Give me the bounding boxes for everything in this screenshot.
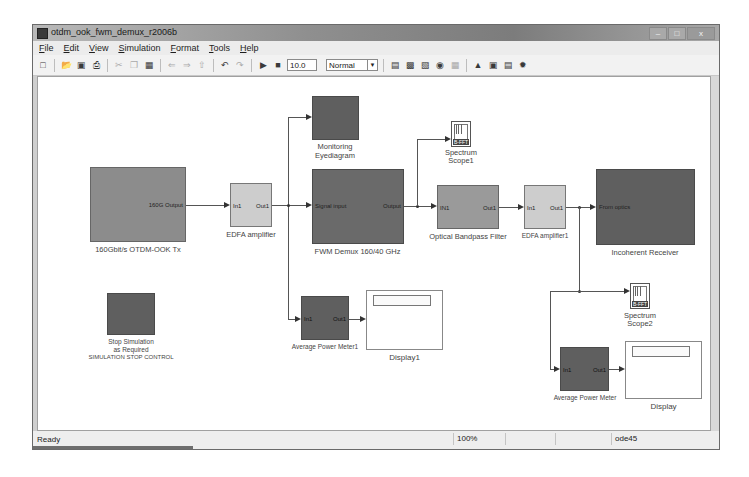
library-icon[interactable]: ▩	[404, 59, 416, 71]
apm-out-port: Out1	[593, 367, 606, 373]
title-bar[interactable]: otdm_ook_fwm_demux_r2006b – □ x	[33, 25, 719, 41]
back-icon[interactable]: ⇐	[166, 59, 178, 71]
obpf-out-port: Out1	[483, 205, 496, 211]
vertical-scrollbar[interactable]	[711, 76, 719, 431]
paste-icon[interactable]: ▦	[143, 59, 155, 71]
arrow-icon	[431, 203, 437, 209]
signal-line[interactable]	[186, 205, 224, 206]
model-explorer-icon[interactable]: ▧	[419, 59, 431, 71]
status-cell-2	[505, 433, 554, 445]
start-icon[interactable]: ▶	[257, 59, 269, 71]
maximize-button[interactable]: □	[668, 27, 686, 40]
toolbar-separator	[466, 59, 467, 72]
properties-icon[interactable]: ▤	[502, 59, 514, 71]
arrow-icon	[554, 366, 560, 372]
redo-icon[interactable]: ↷	[234, 59, 246, 71]
status-bar: Ready 100% ode45	[33, 431, 719, 449]
stop-simulation-block[interactable]	[107, 293, 155, 335]
display-block[interactable]	[625, 341, 702, 399]
menu-format[interactable]: Format	[170, 43, 199, 53]
average-power-meter-1-label: Average Power Meter1	[282, 343, 368, 350]
minimize-button[interactable]: –	[649, 27, 667, 40]
save-icon[interactable]: ▣	[75, 59, 87, 71]
average-power-meter-block[interactable]: In1 Out1	[560, 347, 609, 391]
status-cell-3	[555, 433, 609, 445]
optical-bandpass-filter-block[interactable]: IN1 Out1	[437, 185, 499, 229]
print-icon[interactable]: ⎙	[90, 59, 102, 71]
menu-bar: File Edit View Simulation Format Tools H…	[33, 41, 719, 55]
edfa1-out-port: Out1	[550, 205, 563, 211]
signal-branch-line[interactable]	[550, 291, 551, 369]
copy-icon[interactable]: ❐	[128, 59, 140, 71]
menu-tools[interactable]: Tools	[209, 43, 230, 53]
stop-simulation-label-1: Stop Simulation	[86, 338, 176, 345]
signal-branch-line[interactable]	[579, 207, 580, 292]
stop-simulation-label-2: as Required	[86, 346, 176, 353]
menu-simulation[interactable]: Simulation	[118, 43, 160, 53]
arrow-icon	[360, 316, 366, 322]
display-1-label: Display1	[366, 353, 443, 362]
incoherent-receiver-block[interactable]: From optics	[596, 169, 695, 245]
signal-line[interactable]	[349, 319, 360, 320]
simulation-mode-value: Normal	[329, 61, 355, 70]
signal-line[interactable]	[550, 291, 624, 292]
build-icon[interactable]: ▤	[389, 59, 401, 71]
menu-file[interactable]: File	[39, 43, 54, 53]
incoherent-receiver-label: Incoherent Receiver	[590, 248, 700, 257]
signal-line[interactable]	[288, 319, 295, 320]
apm1-in-port: In1	[304, 316, 312, 322]
menu-edit[interactable]: Edit	[64, 43, 80, 53]
open-icon[interactable]: 📂	[60, 59, 72, 71]
arrow-icon	[295, 316, 301, 322]
scope-tag: B-FFT	[453, 139, 469, 145]
edfa1-in-port: In1	[527, 205, 535, 211]
spectrum-scope-1-block[interactable]: B-FFT	[451, 121, 471, 147]
toolbar: □ 📂 ▣ ⎙ ✂ ❐ ▦ ⇐ ⇒ ⇧ ↶ ↷ ▶ ■ 10.0 Normal …	[33, 55, 719, 76]
spectrum-scope-2-block[interactable]: B-FFT	[630, 283, 650, 309]
undo-icon[interactable]: ↶	[219, 59, 231, 71]
stop-time-input[interactable]: 10.0	[287, 59, 317, 71]
signal-line[interactable]	[417, 139, 445, 140]
signal-line[interactable]	[609, 369, 619, 370]
cut-icon[interactable]: ✂	[113, 59, 125, 71]
arrow-icon	[619, 366, 625, 372]
edfa-amplifier-block[interactable]: In1 Out1	[230, 183, 272, 227]
edfa-amplifier-1-block[interactable]: In1 Out1	[524, 185, 566, 229]
menu-help[interactable]: Help	[240, 43, 259, 53]
solver-name: ode45	[611, 433, 705, 445]
arrow-icon	[224, 202, 230, 208]
arrow-icon	[518, 204, 524, 210]
otdm-tx-block[interactable]: 160G Output	[90, 167, 186, 242]
new-icon[interactable]: □	[37, 59, 49, 71]
signal-branch-line[interactable]	[288, 117, 289, 320]
debug-icon[interactable]: ◉	[434, 59, 446, 71]
menu-view[interactable]: View	[89, 43, 108, 53]
settings-icon[interactable]: ✹	[517, 59, 529, 71]
toolbar-separator	[160, 59, 161, 72]
close-button[interactable]: x	[687, 27, 715, 40]
simulation-mode-select[interactable]: Normal ▼	[326, 59, 378, 71]
window-controls: – □ x	[649, 27, 715, 40]
obpf-in-port: IN1	[440, 205, 449, 211]
edfa-amplifier-label: EDFA amplifier	[215, 230, 287, 239]
arrow-icon	[306, 114, 312, 120]
spectrum-plot-icon	[454, 124, 466, 134]
toolbar-separator	[251, 59, 252, 72]
progress-bar	[33, 446, 193, 449]
signal-branch-line[interactable]	[417, 139, 418, 206]
stop-icon[interactable]: ■	[272, 59, 284, 71]
signal-line[interactable]	[499, 207, 518, 208]
up-icon[interactable]: ⇧	[196, 59, 208, 71]
toolbar-separator	[107, 59, 108, 72]
average-power-meter-1-block[interactable]: In1 Out1	[301, 296, 349, 340]
signal-line[interactable]	[288, 117, 306, 118]
display-1-block[interactable]	[366, 290, 443, 350]
fit-icon[interactable]: ▣	[487, 59, 499, 71]
grid-icon[interactable]: ▦	[449, 59, 461, 71]
eye-diagram-block[interactable]	[312, 96, 359, 140]
browser-icon[interactable]: ▲	[472, 59, 484, 71]
display-1-value	[373, 295, 431, 306]
forward-icon[interactable]: ⇒	[181, 59, 193, 71]
apm1-out-port: Out1	[333, 316, 346, 322]
fwm-demux-block[interactable]: Signal input Output	[312, 169, 404, 244]
